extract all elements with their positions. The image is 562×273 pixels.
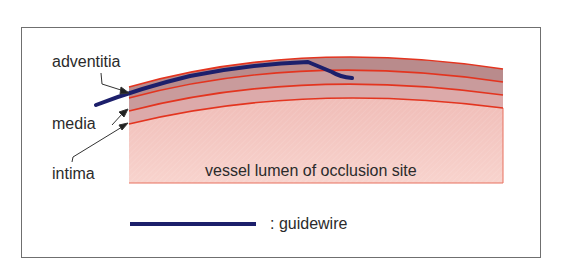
label-vessel-lumen: vessel lumen of occlusion site	[205, 163, 417, 179]
legend-guidewire-label: : guidewire	[270, 216, 347, 232]
label-adventitia: adventitia	[52, 54, 121, 70]
label-intima: intima	[52, 166, 95, 182]
vessel-wall-diagram	[0, 0, 562, 273]
label-media: media	[52, 116, 96, 132]
